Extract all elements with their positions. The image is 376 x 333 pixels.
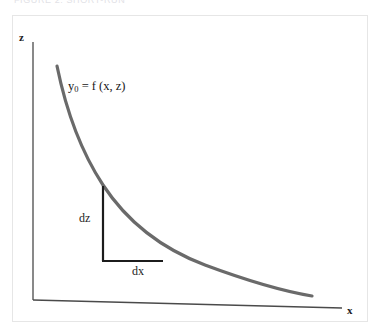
dz-label: dz <box>79 211 90 226</box>
x-axis-label: x <box>347 304 353 316</box>
diagram-canvas <box>0 0 376 333</box>
z-axis-label: z <box>19 31 24 43</box>
curve-equation-label: y0 = f (x, z) <box>68 79 125 94</box>
function-curve <box>57 66 312 296</box>
dx-label: dx <box>132 264 144 279</box>
x-axis-line <box>33 300 342 308</box>
curve-equation-expression: = f (x, z) <box>79 79 126 93</box>
curve-equation-subscript: 0 <box>74 84 78 94</box>
